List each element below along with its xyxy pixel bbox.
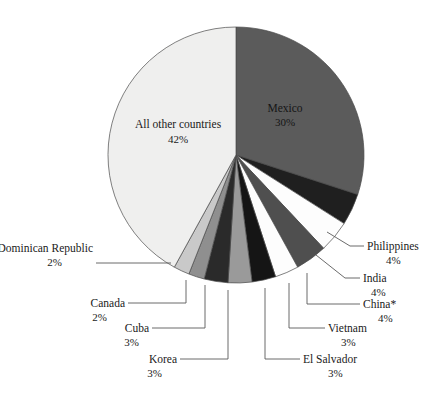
pie-chart-figure: Mexico 30% All other countries 42% Phili… (0, 0, 442, 396)
slice-value-india: 4% (371, 286, 386, 298)
slice-label-mexico: Mexico (267, 102, 302, 114)
pie-chart-svg: Mexico 30% All other countries 42% Phili… (0, 0, 442, 396)
slice-value-vietnam: 3% (341, 336, 356, 348)
leader-line-india (316, 255, 360, 278)
slice-label-vietnam: Vietnam (328, 322, 367, 334)
slice-value-el-salvador: 3% (328, 367, 343, 379)
leader-line-korea (180, 290, 228, 359)
slice-label-china: China* (363, 298, 396, 310)
slice-label-philippines: Philippines (367, 240, 419, 253)
slice-label-dominican-republic: Dominican Republic (0, 242, 93, 255)
leader-line-el-salvador (265, 288, 300, 359)
leader-line-canada (128, 280, 186, 303)
slice-value-china: 4% (378, 312, 393, 324)
slice-value-korea: 3% (147, 367, 162, 379)
slice-value-cuba: 3% (124, 336, 139, 348)
slice-label-all-other-countries: All other countries (135, 118, 222, 130)
pie-slices (108, 27, 364, 283)
slice-value-canada: 2% (92, 311, 107, 323)
slice-value-all-other-countries: 42% (168, 133, 188, 145)
slice-value-philippines: 4% (386, 254, 401, 266)
slice-label-korea: Korea (149, 353, 177, 365)
slice-label-canada: Canada (91, 297, 125, 309)
slice-label-india: India (363, 272, 387, 284)
slice-value-mexico: 30% (275, 116, 295, 128)
leader-line-cuba (152, 285, 205, 328)
slice-value-dominican-republic: 2% (47, 256, 62, 268)
slice-label-el-salvador: El Salvador (303, 353, 357, 365)
slice-label-cuba: Cuba (125, 322, 149, 334)
